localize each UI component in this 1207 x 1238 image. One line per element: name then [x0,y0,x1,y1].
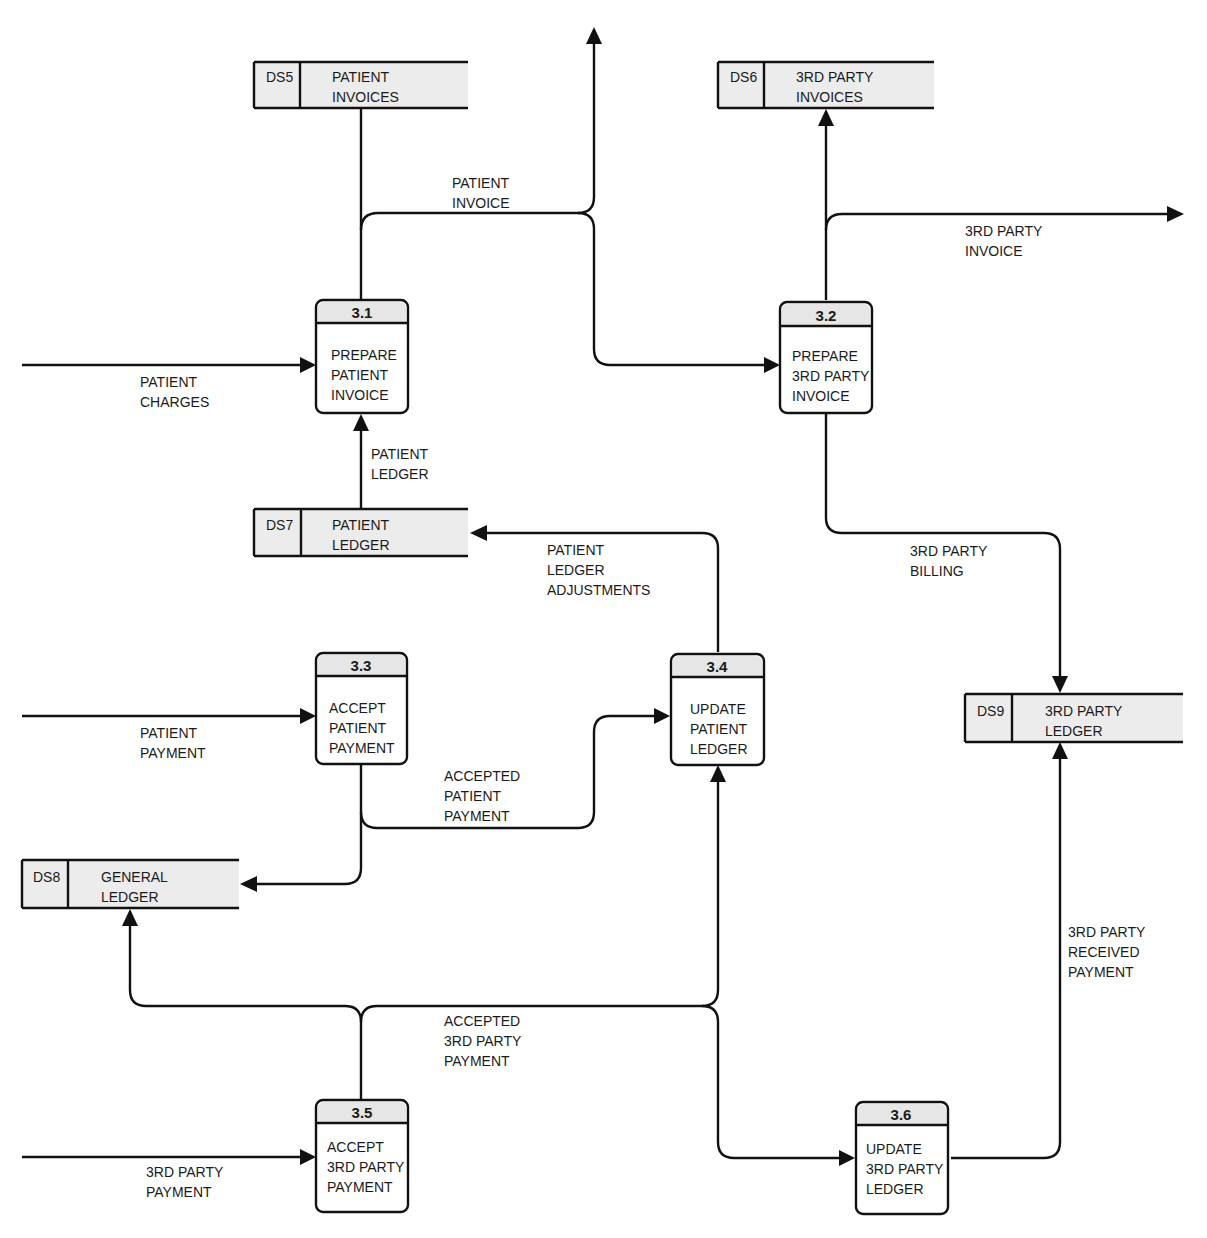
data-store-label-line: INVOICES [796,89,863,105]
arrow-right-icon [839,1150,855,1166]
process-label-line: PAYMENT [327,1179,393,1195]
flow-label-line: INVOICE [452,195,510,211]
process-id: 3.3 [351,657,372,674]
flow-label-patient-charges: PATIENT CHARGES [140,374,209,410]
arrow-up-icon [1052,742,1068,759]
flow-label-line: ADJUSTMENTS [547,582,650,598]
data-store-label-line: LEDGER [1045,723,1103,739]
arrow-up-icon [122,909,138,926]
process-label-line: UPDATE [866,1141,922,1157]
flow-3-3-to-ds8 [255,812,361,884]
arrow-right-icon [764,357,780,373]
data-store-label-line: GENERAL [101,869,168,885]
process-label-line: PATIENT [690,721,747,737]
flow-label-accepted-patient-payment: ACCEPTED PATIENT PAYMENT [444,768,520,824]
process-3-3[interactable]: 3.3 ACCEPT PATIENT PAYMENT [316,653,407,764]
arrow-up-icon [818,109,834,126]
data-store-label-line: 3RD PARTY [796,69,874,85]
arrow-up-icon [710,765,726,782]
process-id: 3.2 [816,307,837,324]
process-label-line: PAYMENT [329,740,395,756]
data-store-id: DS6 [730,69,757,85]
flow-label-line: 3RD PARTY [1068,924,1146,940]
flow-label-line: 3RD PARTY [965,223,1043,239]
flow-label-line: PATIENT [444,788,501,804]
process-3-2[interactable]: 3.2 PREPARE 3RD PARTY INVOICE [780,302,872,413]
flow-label-patient-payment: PATIENT PAYMENT [140,725,206,761]
arrow-left-icon [240,876,257,892]
arrow-up-icon [586,27,602,44]
flow-label-line: ACCEPTED [444,1013,520,1029]
data-flow-diagram: DS5 PATIENT INVOICES DS6 3RD PARTY INVOI… [0,0,1207,1238]
flow-label-line: 3RD PARTY [146,1164,224,1180]
flow-3-5-trunk [130,925,361,1100]
flow-third-party-received-payment [951,755,1060,1158]
process-id: 3.6 [891,1106,912,1123]
process-id: 3.5 [352,1104,373,1121]
data-store-ds9[interactable]: DS9 3RD PARTY LEDGER [965,694,1183,742]
flow-label-line: CHARGES [140,394,209,410]
flow-label-line: PATIENT [547,542,604,558]
flow-accepted-third-party-to-3-4 [361,780,718,1022]
flow-label-line: 3RD PARTY [444,1033,522,1049]
flow-label-third-party-received-payment: 3RD PARTY RECEIVED PAYMENT [1068,924,1146,980]
data-store-label-line: LEDGER [101,889,159,905]
arrow-right-icon [300,708,316,724]
flow-label-line: PAYMENT [146,1184,212,1200]
data-store-label-line: LEDGER [332,537,390,553]
data-store-label-line: PATIENT [332,517,389,533]
process-label-line: LEDGER [866,1181,924,1197]
flow-label-accepted-third-party-payment: ACCEPTED 3RD PARTY PAYMENT [444,1013,522,1069]
process-3-1[interactable]: 3.1 PREPARE PATIENT INVOICE [316,300,408,413]
flow-accepted-third-party-to-3-6 [702,1006,843,1158]
arrow-left-icon [470,525,487,541]
flow-label-line: INVOICE [965,243,1023,259]
process-label-line: ACCEPT [327,1139,384,1155]
arrowheads [122,27,1184,1166]
data-store-id: DS7 [266,517,293,533]
flow-label-line: 3RD PARTY [910,543,988,559]
flow-lines [22,42,1170,1158]
process-label-line: 3RD PARTY [327,1159,405,1175]
process-label-line: 3RD PARTY [792,368,870,384]
process-label-line: PREPARE [792,348,858,364]
data-store-ds5[interactable]: DS5 PATIENT INVOICES [254,62,468,108]
process-label-line: PREPARE [331,347,397,363]
process-3-4[interactable]: 3.4 UPDATE PATIENT LEDGER [671,654,764,765]
flow-label-line: BILLING [910,563,964,579]
flow-label-line: PATIENT [140,374,197,390]
arrow-right-icon [654,708,670,724]
flow-label-line: PATIENT [371,446,428,462]
process-3-6[interactable]: 3.6 UPDATE 3RD PARTY LEDGER [856,1102,948,1214]
process-3-5[interactable]: 3.5 ACCEPT 3RD PARTY PAYMENT [316,1100,408,1212]
flow-label-line: PATIENT [140,725,197,741]
data-store-id: DS8 [33,869,60,885]
data-store-ds7[interactable]: DS7 PATIENT LEDGER [254,509,468,556]
flow-label-line: LEDGER [547,562,605,578]
process-label-line: PATIENT [331,367,388,383]
arrow-right-icon [1167,206,1184,222]
data-store-ds8[interactable]: DS8 GENERAL LEDGER [22,860,239,908]
flow-label-line: PAYMENT [444,808,510,824]
flow-label-third-party-billing: 3RD PARTY BILLING [910,543,988,579]
arrow-up-icon [353,414,369,431]
arrow-right-icon [300,1149,316,1165]
arrow-down-icon [1052,676,1068,693]
data-store-label-line: 3RD PARTY [1045,703,1123,719]
data-store-id: DS9 [977,703,1004,719]
process-label-line: UPDATE [690,701,746,717]
process-label-line: ACCEPT [329,700,386,716]
flow-label-line: LEDGER [371,466,429,482]
data-store-label-line: PATIENT [332,69,389,85]
data-store-id: DS5 [266,69,293,85]
arrow-right-icon [300,357,316,373]
data-store-ds6[interactable]: DS6 3RD PARTY INVOICES [718,62,934,108]
flow-label-third-party-invoice: 3RD PARTY INVOICE [965,223,1043,259]
flow-label-third-party-payment: 3RD PARTY PAYMENT [146,1164,224,1200]
process-id: 3.1 [352,304,373,321]
flow-patient-invoice-to-3-2 [578,213,768,365]
flow-label-patient-invoice: PATIENT INVOICE [452,175,510,211]
flow-label-patient-ledger-adjustments: PATIENT LEDGER ADJUSTMENTS [547,542,650,598]
flow-label-line: ACCEPTED [444,768,520,784]
flow-label-line: PAYMENT [1068,964,1134,980]
